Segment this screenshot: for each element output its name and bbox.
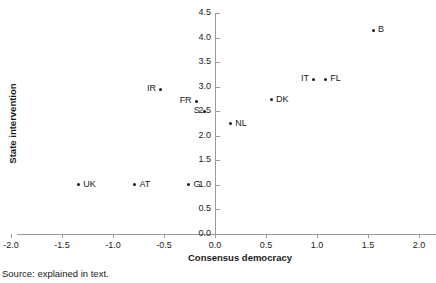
x-tick-mark xyxy=(62,234,63,238)
x-tick-mark xyxy=(266,234,267,238)
x-tick-label: 2.0 xyxy=(399,240,436,250)
x-tick-label: -0.5 xyxy=(144,240,184,250)
y-tick-mark xyxy=(215,13,220,14)
x-tick-mark xyxy=(368,234,369,238)
data-point-label: DK xyxy=(276,95,289,104)
y-tick-label: 0.0 xyxy=(179,229,211,238)
data-point-marker xyxy=(133,183,136,186)
x-axis-title: Consensus democracy xyxy=(120,252,360,263)
data-point-label: UK xyxy=(83,180,96,189)
x-tick-mark xyxy=(113,234,114,238)
data-point-marker xyxy=(270,98,273,101)
data-point-marker xyxy=(77,183,80,186)
scatter-plot-figure: 0.00.51.01.52.02.53.03.54.04.5 -2.0-1.5-… xyxy=(0,0,436,283)
y-tick-mark xyxy=(215,111,220,112)
x-tick-mark xyxy=(419,234,420,238)
source-note: Source: explained in text. xyxy=(2,268,109,279)
y-axis-title: State intervention xyxy=(7,62,18,186)
y-axis-line xyxy=(215,13,216,235)
data-point-label: S xyxy=(194,106,200,115)
x-tick-label: 0.5 xyxy=(246,240,286,250)
x-tick-mark xyxy=(11,234,12,238)
data-point-label: B xyxy=(378,25,384,34)
y-tick-label: 4.5 xyxy=(179,8,211,17)
x-tick-mark xyxy=(215,234,216,238)
x-tick-label: -1.5 xyxy=(42,240,82,250)
y-tick-label: 2.0 xyxy=(179,131,211,140)
data-point-marker xyxy=(312,78,315,81)
y-tick-mark xyxy=(215,87,220,88)
x-tick-label: 1.5 xyxy=(348,240,388,250)
y-tick-label: 3.0 xyxy=(179,82,211,91)
y-tick-label: 4.0 xyxy=(179,33,211,42)
y-tick-label: 1.5 xyxy=(179,155,211,164)
y-tick-mark xyxy=(215,62,220,63)
y-tick-label: 3.5 xyxy=(179,57,211,66)
data-point-marker xyxy=(229,122,232,125)
y-tick-label: 0.5 xyxy=(179,204,211,213)
x-tick-mark xyxy=(317,234,318,238)
y-tick-mark xyxy=(215,209,220,210)
data-point-marker xyxy=(372,29,375,32)
y-tick-mark xyxy=(215,185,220,186)
data-point-marker xyxy=(195,100,198,103)
x-tick-label: 0.0 xyxy=(195,240,235,250)
y-tick-mark xyxy=(215,38,220,39)
data-point-label: IT xyxy=(301,74,309,83)
data-point-marker xyxy=(324,78,327,81)
x-axis-line xyxy=(17,234,436,235)
data-point-label: IR xyxy=(147,84,156,93)
y-tick-mark xyxy=(215,160,220,161)
y-tick-mark xyxy=(215,136,220,137)
x-tick-label: -2.0 xyxy=(0,240,31,250)
data-point-label: G xyxy=(193,180,200,189)
data-point-marker xyxy=(159,88,162,91)
x-tick-label: 1.0 xyxy=(297,240,337,250)
x-tick-label: -1.0 xyxy=(93,240,133,250)
data-point-label: AT xyxy=(139,180,150,189)
data-point-label: FR xyxy=(180,96,192,105)
x-tick-mark xyxy=(164,234,165,238)
data-point-label: NL xyxy=(235,119,247,128)
data-point-label: FL xyxy=(330,74,341,83)
